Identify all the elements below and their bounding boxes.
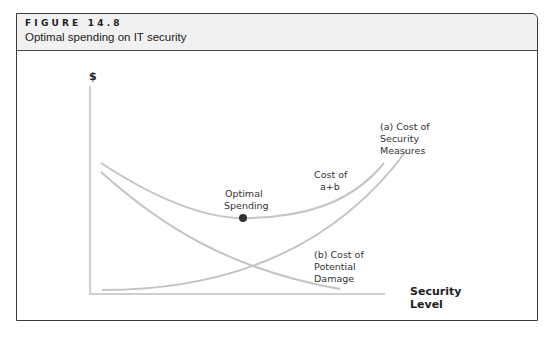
potential-damage-label-2: Potential	[314, 261, 356, 272]
x-axis-label-line1: Security	[410, 285, 461, 298]
total-cost-label-1: Cost of	[314, 169, 348, 180]
optimal-spending-point	[239, 214, 247, 222]
optimal-spending-label-1: Optimal	[225, 188, 263, 199]
total-cost-label-2: a+b	[320, 181, 340, 192]
potential-damage-label-1: (b) Cost of	[314, 249, 364, 260]
curve-security-measures-cost	[102, 150, 407, 290]
potential-damage-label-3: Damage	[314, 273, 354, 284]
security-measures-label-3: Measures	[380, 145, 425, 156]
curve-potential-damage-cost	[101, 172, 340, 289]
security-measures-label-1: (a) Cost of	[380, 121, 430, 132]
diagram: $ Security Level (a) Cost of Security Me…	[0, 0, 554, 338]
x-axis-label-line2: Level	[410, 298, 443, 311]
optimal-spending-label-2: Spending	[224, 200, 269, 211]
security-measures-label-2: Security	[380, 133, 419, 144]
y-axis-label: $	[89, 70, 97, 83]
